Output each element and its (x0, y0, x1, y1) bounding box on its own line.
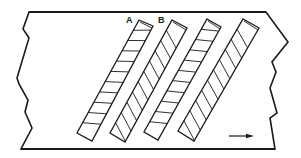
stripe-label-b: B (158, 15, 165, 25)
diagram-svg: AB (0, 0, 301, 158)
stripes-group (77, 19, 259, 142)
stripe-label-a: A (126, 15, 133, 25)
hatch-line (111, 71, 129, 72)
direction-arrow (229, 134, 254, 138)
arrow-right-icon (246, 134, 254, 138)
